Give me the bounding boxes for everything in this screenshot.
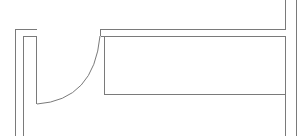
door-swing-arc	[37, 36, 100, 104]
floor-plan-diagram	[0, 0, 308, 140]
left-wall-outer	[16, 30, 37, 137]
left-door-jamb	[24, 37, 37, 137]
inner-panel	[105, 37, 286, 95]
top-wall-upper	[101, 0, 286, 36]
